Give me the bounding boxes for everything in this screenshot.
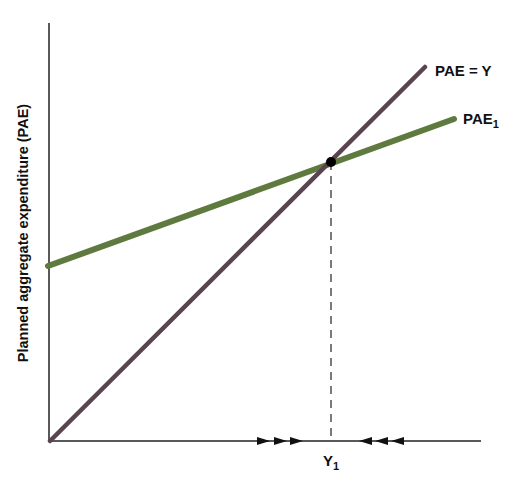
pae-equals-y-label: PAE = Y — [435, 62, 492, 79]
arrows-left-icon — [359, 437, 404, 445]
pae1-line — [48, 119, 454, 266]
pae-equals-y-line — [50, 67, 425, 441]
arrows-right-icon — [257, 437, 303, 445]
equilibrium-point — [326, 157, 336, 167]
y-axis-label: Planned aggregate expenditure (PAE) — [15, 104, 31, 363]
y1-tick-label: Y1 — [323, 452, 339, 472]
keynesian-cross-diagram: PAE = Y PAE1 Y1 Planned aggregate expend… — [0, 0, 513, 484]
pae1-label: PAE1 — [463, 110, 499, 130]
